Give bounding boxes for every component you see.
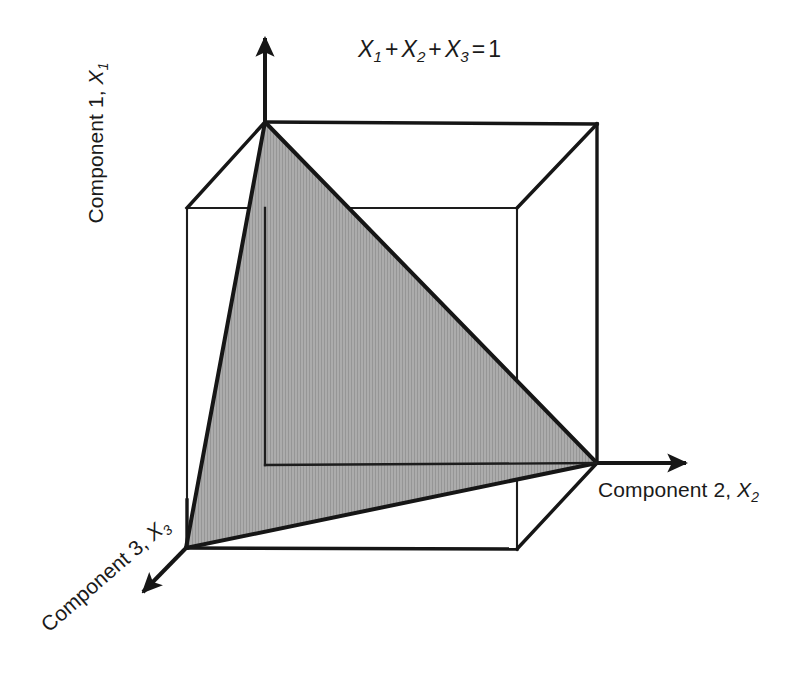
cube-simplex-drawing bbox=[0, 0, 800, 689]
axis-3-arrow bbox=[143, 548, 186, 592]
equation-term-3: X3 bbox=[445, 36, 469, 62]
equation-equals-sign: = bbox=[469, 36, 489, 62]
equation-term-1: X1 bbox=[358, 36, 382, 62]
equation-plus-1: + bbox=[382, 36, 402, 62]
equation-plus-2: + bbox=[425, 36, 445, 62]
axis-1-label-text: Component 1, bbox=[84, 90, 107, 223]
mixture-simplex-figure: X1+X2+X3=1 Component 1, X1 Component 2, … bbox=[0, 0, 800, 689]
axis-2-label-text: Component 2, bbox=[598, 478, 731, 501]
simplex-equation-label: X1+X2+X3=1 bbox=[358, 36, 501, 63]
simplex-plane bbox=[186, 122, 597, 548]
cube-edge-near-top bbox=[265, 122, 597, 124]
axis-2-symbol: X2 bbox=[737, 478, 759, 501]
axis-1-label: Component 1, X1 bbox=[84, 28, 108, 258]
equation-result: 1 bbox=[488, 36, 501, 62]
cube-edge-origin-to-front-bottom-right bbox=[186, 548, 517, 549]
axis-1-symbol: X1 bbox=[84, 63, 107, 85]
equation-term-2: X2 bbox=[401, 36, 425, 62]
cube-edge-depth-top-right bbox=[517, 124, 597, 208]
axis-2-label: Component 2, X2 bbox=[598, 478, 759, 502]
